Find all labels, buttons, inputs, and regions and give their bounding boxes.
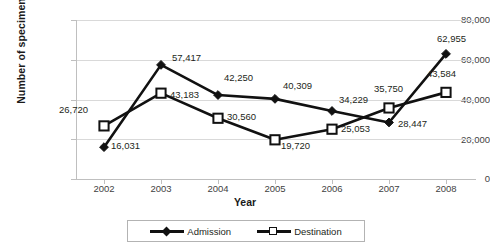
data-label-admission-2006: 34,229 [339, 95, 368, 105]
legend-item-admission[interactable]: Admission [150, 225, 231, 237]
data-label-destination-2003: 43,183 [170, 90, 199, 100]
legend-marker-filled-diamond-icon [150, 225, 184, 237]
data-label-admission-2003: 57,417 [172, 53, 201, 63]
legend-item-destination[interactable]: Destination [257, 225, 342, 237]
legend-label-admission: Admission [187, 226, 231, 237]
data-label-admission-2002: 16,031 [111, 141, 140, 151]
x-tick-label-2007: 2007 [359, 183, 419, 194]
x-tick-label-2003: 2003 [131, 183, 191, 194]
data-label-destination-2006: 25,053 [341, 124, 370, 134]
y-axis-title: Number of specimens [15, 0, 27, 123]
x-tick-label-2002: 2002 [74, 183, 134, 194]
data-label-destination-2002: 26,720 [59, 105, 88, 115]
x-tick-label-2005: 2005 [245, 183, 305, 194]
x-axis-line [76, 179, 476, 180]
plot-area [76, 20, 475, 179]
x-tick-label-2004: 2004 [188, 183, 248, 194]
y-axis-line [76, 20, 77, 180]
gridline-40000 [76, 100, 475, 101]
data-label-admission-2008: 62,955 [437, 34, 466, 44]
gridline-60000 [76, 60, 475, 61]
data-label-destination-2008: 43,584 [427, 69, 456, 79]
gridline-80000 [76, 20, 475, 21]
x-tick-label-2006: 2006 [302, 183, 362, 194]
legend-marker-open-square-icon [257, 225, 291, 237]
line-chart: Number of specimens 80,000 60,000 40,000… [0, 0, 490, 252]
chart-legend: Admission Destination [127, 220, 365, 242]
data-label-admission-2004: 42,250 [224, 73, 253, 83]
data-label-destination-2004: 30,560 [227, 112, 256, 122]
data-label-admission-2005: 40,309 [283, 81, 312, 91]
data-label-destination-2005: 19,720 [281, 141, 310, 151]
legend-label-destination: Destination [294, 226, 342, 237]
data-label-admission-2007: 28,447 [398, 119, 427, 129]
data-label-destination-2007: 35,750 [374, 84, 403, 94]
x-axis-title: Year [0, 196, 490, 208]
x-tick-label-2008: 2008 [416, 183, 476, 194]
